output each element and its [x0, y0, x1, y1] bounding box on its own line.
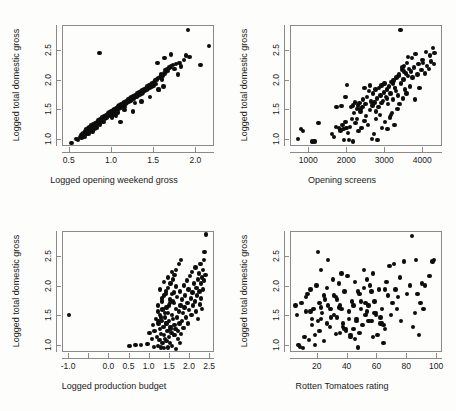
data-point	[133, 101, 137, 105]
y-tick-label: 1.0	[271, 133, 281, 145]
data-point	[179, 332, 183, 336]
data-point	[351, 303, 355, 307]
data-point	[133, 343, 137, 347]
data-point	[374, 117, 378, 121]
x-tick-mark	[88, 353, 89, 358]
x-tick-mark	[376, 353, 377, 358]
data-point	[431, 46, 435, 50]
data-point	[347, 309, 351, 313]
y-tick-label: 1.0	[43, 339, 53, 351]
data-point	[307, 338, 311, 342]
data-point	[352, 111, 356, 115]
x-tick-label: 1.0	[143, 361, 155, 371]
data-point	[395, 107, 399, 111]
data-point	[320, 311, 324, 315]
data-point	[353, 280, 357, 284]
data-point	[402, 259, 406, 263]
data-point	[317, 329, 321, 333]
data-point	[198, 63, 202, 67]
x-tick-mark	[347, 353, 348, 358]
data-point	[172, 290, 176, 294]
data-point	[353, 121, 357, 125]
data-point	[169, 52, 173, 56]
data-point	[174, 268, 178, 272]
data-point	[401, 77, 405, 81]
x-tick-label: 2000	[337, 155, 356, 165]
y-tick-mark	[284, 109, 289, 110]
data-point	[359, 299, 363, 303]
data-point	[167, 303, 171, 307]
data-point	[198, 262, 202, 266]
data-point	[199, 296, 203, 300]
y-tick-label: 2.5	[43, 250, 53, 262]
data-point	[139, 99, 143, 103]
data-point	[187, 55, 191, 59]
data-point	[353, 337, 357, 341]
data-point	[325, 321, 329, 325]
data-point	[69, 141, 73, 145]
data-point	[414, 258, 418, 262]
y-tick-label: 2.5	[271, 250, 281, 262]
data-point	[331, 277, 335, 281]
x-tick-mark	[169, 353, 170, 358]
data-point	[182, 58, 186, 62]
x-tick-mark	[111, 147, 112, 152]
data-point	[398, 28, 402, 32]
data-point	[176, 72, 180, 76]
data-point	[377, 287, 381, 291]
y-tick-label: 1.5	[43, 103, 53, 115]
x-tick-label: 1.5	[147, 155, 159, 165]
data-point	[301, 129, 305, 133]
data-point	[202, 258, 206, 262]
data-point	[383, 287, 387, 291]
data-point	[369, 289, 373, 293]
figure-canvas: Logged total domestic gross 0.51.01.52.0…	[0, 0, 456, 411]
data-point	[156, 303, 160, 307]
x-tick-label: 4000	[413, 155, 432, 165]
data-point	[313, 343, 317, 347]
x-tick-label: 0.0	[102, 361, 114, 371]
data-point	[356, 289, 360, 293]
data-point	[374, 109, 378, 113]
data-point	[139, 343, 143, 347]
data-points-layer	[291, 232, 441, 351]
x-tick-mark	[436, 353, 437, 358]
data-point	[359, 307, 363, 311]
data-point	[392, 123, 396, 127]
x-tick-label: 1.0	[105, 155, 117, 165]
data-point	[337, 281, 341, 285]
data-point	[348, 125, 352, 129]
data-point	[375, 138, 379, 142]
data-point	[185, 301, 189, 305]
y-tick-mark	[284, 345, 289, 346]
y-tick-mark	[284, 139, 289, 140]
data-point	[203, 273, 207, 277]
data-point	[178, 289, 182, 293]
y-tick-label: 1.5	[271, 309, 281, 321]
data-point	[313, 139, 317, 143]
data-point	[387, 264, 391, 268]
data-point	[366, 123, 370, 127]
y-axis-label: Logged total domestic gross	[11, 29, 21, 142]
data-point	[342, 138, 346, 142]
data-point	[184, 315, 188, 319]
data-point	[355, 117, 359, 121]
data-point	[399, 81, 403, 85]
data-point	[378, 315, 382, 319]
y-axis-line	[284, 231, 285, 352]
data-point	[313, 333, 317, 337]
data-point	[393, 287, 397, 291]
data-point	[354, 319, 358, 323]
data-point	[186, 28, 190, 32]
x-tick-label: 0.5	[63, 155, 75, 165]
y-tick-mark	[284, 286, 289, 287]
data-point	[326, 258, 330, 262]
data-point	[189, 313, 193, 317]
x-tick-mark	[149, 353, 150, 358]
data-point	[427, 274, 431, 278]
data-point	[178, 341, 182, 345]
data-point	[368, 283, 372, 287]
data-point	[167, 335, 171, 339]
x-tick-label: 100	[429, 361, 443, 371]
plot-frame	[290, 25, 442, 146]
